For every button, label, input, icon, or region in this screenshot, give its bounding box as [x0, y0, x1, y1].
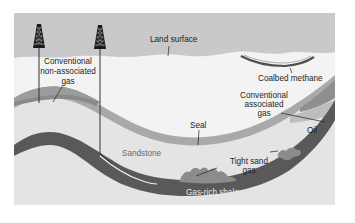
label-conventional-non-associated-gas-line1: Conventional	[44, 57, 92, 66]
label-conventional-associated-gas-line1: Conventional	[240, 91, 288, 100]
label-conventional-associated-gas-line3: gas	[257, 109, 270, 118]
label-tight-sand-gas-line1: Tight sand	[230, 157, 268, 166]
label-sandstone: Sandstone	[122, 149, 162, 158]
label-coalbed-methane: Coalbed methane	[258, 74, 323, 83]
label-oil: Oil	[307, 126, 317, 135]
label-tight-sand-gas-line2: gas	[242, 166, 255, 175]
label-gas-rich-shale: Gas-rich shale	[186, 188, 239, 197]
natural-gas-cross-section-diagram: Land surface Coalbed methane Conventiona…	[0, 0, 355, 223]
label-conventional-associated-gas-line2: associated	[244, 100, 284, 109]
label-seal: Seal	[190, 121, 207, 130]
label-land-surface: Land surface	[150, 35, 198, 44]
label-conventional-non-associated-gas-line2: non-associated	[40, 67, 96, 76]
label-conventional-non-associated-gas-line3: gas	[61, 77, 74, 86]
